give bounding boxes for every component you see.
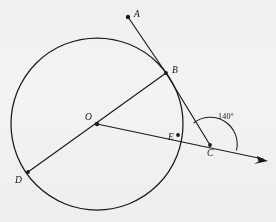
point-label-e: E: [168, 133, 174, 143]
figure-canvas: [0, 0, 276, 222]
angle-label-140: 140°: [218, 113, 234, 121]
point-label-b: B: [172, 66, 178, 76]
point-o-dot: [95, 122, 99, 126]
point-d-dot: [26, 170, 30, 174]
point-c-dot: [208, 143, 212, 147]
point-a-dot: [126, 15, 130, 19]
segment-oc-ray: [97, 124, 263, 159]
point-b-dot: [164, 71, 168, 75]
point-label-d: D: [15, 176, 22, 186]
point-label-o: O: [85, 113, 92, 123]
geometry-figure: A B O C E D 140°: [0, 0, 276, 222]
point-label-c: C: [207, 149, 213, 159]
segment-ab: [128, 17, 166, 73]
point-e-dot: [176, 133, 180, 137]
point-label-a: A: [134, 10, 140, 20]
